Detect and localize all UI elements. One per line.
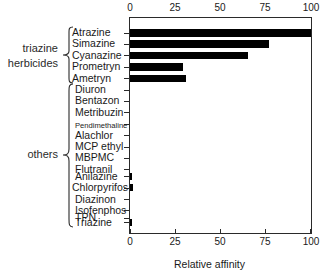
cat-label-triazine: Triazine: [75, 217, 112, 229]
cat-tick-15: [124, 199, 129, 200]
bar-chart: 0 25 50 75 100 Atrazine Simazine C: [0, 0, 329, 278]
bar-cyanazine: [130, 52, 248, 60]
cat-tick-4: [124, 78, 129, 79]
bar-triazine: [130, 219, 132, 227]
cat-tick-0: [124, 33, 129, 34]
bottom-axis-tick-label-50: 50: [205, 236, 235, 247]
brace-others: [62, 83, 74, 229]
bar-chlorpyrifos: [130, 184, 133, 192]
bottom-axis-tick-0: [130, 229, 131, 234]
top-axis-tick-label-25: 25: [160, 2, 190, 13]
plot-area: [129, 17, 312, 234]
bar-ametryn: [130, 75, 186, 83]
bar-atrazine: [130, 29, 311, 37]
x-axis-title: Relative affinity: [0, 258, 329, 270]
cat-tick-3: [124, 67, 129, 68]
bottom-axis-tick-100: [310, 229, 311, 234]
cat-tick-13: [124, 176, 129, 177]
cat-tick-6: [124, 101, 129, 102]
group-label-triazine-line2: herbicides: [0, 57, 58, 69]
bottom-axis-tick-50: [220, 229, 221, 234]
brace-triazine-herbicides: [62, 26, 74, 84]
top-axis-tick-label-100: 100: [296, 2, 326, 13]
top-axis-tick-label-75: 75: [250, 2, 280, 13]
bar-anilazine: [130, 173, 132, 181]
bottom-axis-tick-75: [265, 229, 266, 234]
cat-tick-18: [124, 222, 129, 223]
group-label-others: others: [0, 148, 58, 160]
bottom-axis-tick-label-25: 25: [160, 236, 190, 247]
cat-label-metribuzin: Metribuzin: [75, 107, 123, 119]
cat-tick-17: [124, 218, 129, 219]
bottom-axis-tick-label-0: 0: [115, 236, 145, 247]
top-axis-tick-label-50: 50: [205, 2, 235, 13]
bottom-axis-tick-label-100: 100: [296, 236, 326, 247]
top-axis-tick-label-0: 0: [115, 2, 145, 13]
cat-tick-9: [124, 135, 129, 136]
bottom-axis-tick-25: [175, 229, 176, 234]
bottom-axis-tick-label-75: 75: [250, 236, 280, 247]
cat-tick-12: [124, 169, 129, 170]
cat-tick-5: [124, 90, 129, 91]
cat-tick-10: [124, 147, 129, 148]
cat-tick-11: [124, 158, 129, 159]
bar-simazine: [130, 40, 269, 48]
bar-prometryn: [130, 63, 183, 71]
group-label-triazine-line1: triazine: [0, 42, 58, 54]
cat-tick-1: [124, 44, 129, 45]
cat-tick-7: [124, 112, 129, 113]
cat-tick-2: [124, 55, 129, 56]
